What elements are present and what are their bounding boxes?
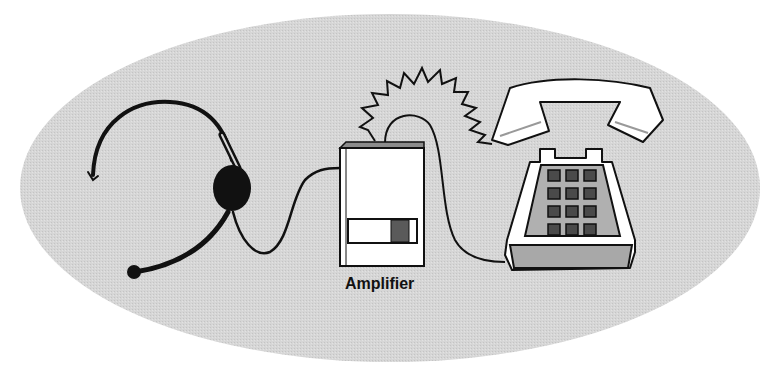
diagram-canvas <box>0 0 779 382</box>
microphone-icon <box>127 265 141 279</box>
amplifier-switch <box>348 219 417 243</box>
amplifier-label: Amplifier <box>345 275 414 293</box>
diagram-stage: Amplifier <box>0 0 779 382</box>
amplifier-box-icon <box>340 142 424 266</box>
headset-earpiece-icon <box>213 165 251 211</box>
